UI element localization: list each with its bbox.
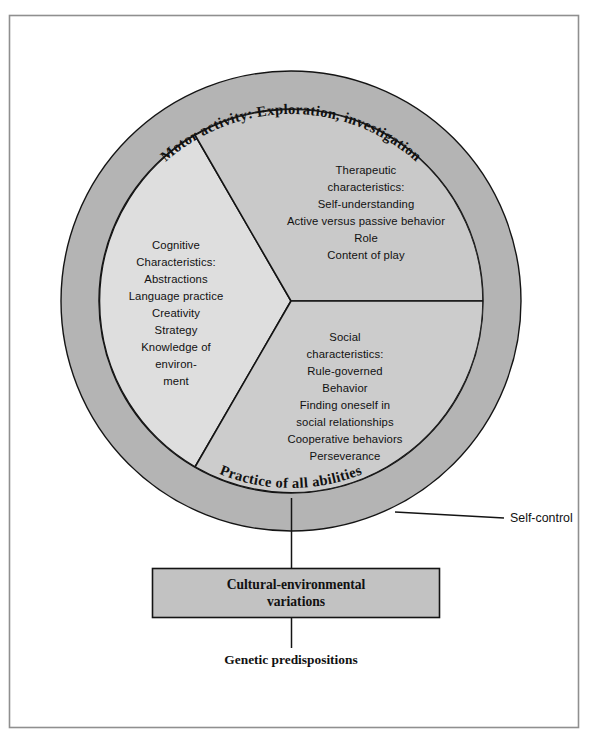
- therapeutic-line-5: Content of play: [327, 249, 405, 261]
- cognitive-line-4: Creativity: [152, 307, 200, 319]
- social-line-1: characteristics:: [307, 348, 384, 360]
- self-control-leader-line: [395, 512, 504, 518]
- therapeutic-line-3: Active versus passive behavior: [287, 215, 445, 227]
- therapeutic-line-4: Role: [354, 232, 378, 244]
- cognitive-line-0: Cognitive: [152, 239, 200, 251]
- therapeutic-line-0: Therapeutic: [336, 164, 397, 176]
- cognitive-line-8: ment: [163, 375, 189, 387]
- cognitive-line-2: Abstractions: [144, 273, 208, 285]
- therapeutic-line-1: characteristics:: [328, 181, 405, 193]
- social-line-5: social relationships: [296, 416, 394, 428]
- social-line-2: Rule-governed: [307, 365, 382, 377]
- genetic-predispositions-label: Genetic predispositions: [224, 652, 357, 667]
- cognitive-line-5: Strategy: [155, 324, 198, 336]
- social-line-0: Social: [329, 331, 360, 343]
- cognitive-line-1: Characteristics:: [136, 256, 215, 268]
- social-line-7: Perseverance: [310, 450, 381, 462]
- cognitive-line-3: Language practice: [129, 290, 224, 302]
- social-line-3: Behavior: [322, 382, 368, 394]
- cognitive-line-7: environ-: [155, 358, 197, 370]
- figure-root: Motor activity: Exploration, investigati…: [0, 0, 592, 734]
- box-line-2: variations: [267, 594, 325, 609]
- cultural-variations-box: [153, 569, 440, 618]
- box-line-1: Cultural-environmental: [227, 577, 366, 592]
- play-characteristics-diagram: Motor activity: Exploration, investigati…: [0, 0, 592, 734]
- cognitive-line-6: Knowledge of: [141, 341, 211, 353]
- social-line-6: Cooperative behaviors: [287, 433, 402, 445]
- social-line-4: Finding oneself in: [300, 399, 390, 411]
- self-control-label: Self-control: [510, 511, 573, 525]
- therapeutic-line-2: Self-understanding: [318, 198, 415, 210]
